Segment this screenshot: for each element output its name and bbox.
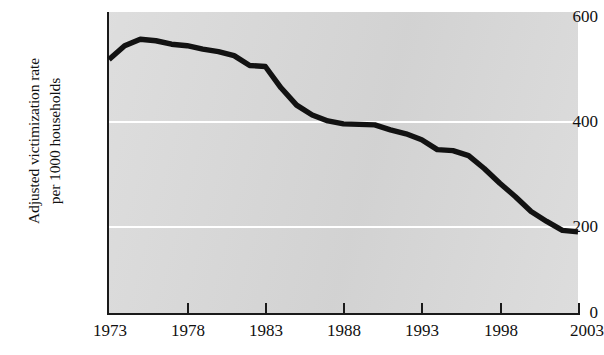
series-line-victimization-rate xyxy=(109,12,578,313)
x-tick-label-1973: 1973 xyxy=(75,321,145,340)
x-tick-label-1983: 1983 xyxy=(231,321,301,340)
x-tick-mark-2003 xyxy=(578,303,580,314)
y-axis-title: Adjusted victimization rate per 1000 hou… xyxy=(23,0,69,291)
x-tick-label-2003: 2003 xyxy=(548,321,604,340)
x-tick-label-1978: 1978 xyxy=(153,321,223,340)
x-tick-label-1988: 1988 xyxy=(309,321,379,340)
x-tick-label-1998: 1998 xyxy=(466,321,536,340)
x-tick-label-1993: 1993 xyxy=(387,321,457,340)
